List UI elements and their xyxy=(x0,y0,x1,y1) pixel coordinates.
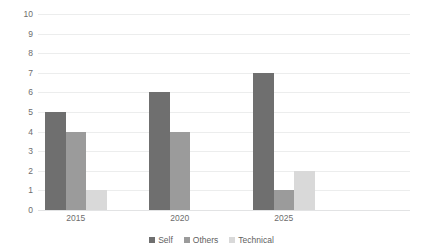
legend-item-self[interactable]: Self xyxy=(149,236,173,245)
y-axis-tick-label: 0 xyxy=(3,206,33,215)
bar-self-2025 xyxy=(253,73,274,210)
y-axis-tick-label: 5 xyxy=(3,108,33,117)
legend-swatch-icon xyxy=(149,237,155,243)
bar-self-2015 xyxy=(45,112,66,210)
legend-swatch-icon xyxy=(229,237,235,243)
y-axis-tick-label: 1 xyxy=(3,186,33,195)
legend-item-technical[interactable]: Technical xyxy=(229,236,273,245)
gridline xyxy=(38,112,410,113)
bar-self-2020 xyxy=(149,92,170,210)
bar-chart: 012345678910 SelfOthersTechnical 2015202… xyxy=(0,0,423,251)
gridline xyxy=(38,171,410,172)
y-axis-tick-label: 7 xyxy=(3,69,33,78)
y-axis-tick-label: 10 xyxy=(3,10,33,19)
chart-legend: SelfOthersTechnical xyxy=(0,236,423,245)
y-axis-tick-label: 3 xyxy=(3,147,33,156)
bar-technical-2015 xyxy=(86,190,107,210)
y-axis: 012345678910 xyxy=(0,14,33,210)
x-axis-tick-label: 2020 xyxy=(129,214,231,223)
gridline xyxy=(38,210,410,211)
legend-item-others[interactable]: Others xyxy=(184,236,219,245)
y-axis-tick-label: 4 xyxy=(3,127,33,136)
legend-label: Technical xyxy=(238,236,273,245)
x-axis-tick-label: 2025 xyxy=(233,214,335,223)
x-axis-tick-label: 2015 xyxy=(25,214,127,223)
y-axis-tick-label: 2 xyxy=(3,167,33,176)
legend-label: Self xyxy=(158,236,173,245)
bar-others-2025 xyxy=(274,190,295,210)
legend-swatch-icon xyxy=(184,237,190,243)
gridline xyxy=(38,92,410,93)
bar-others-2015 xyxy=(66,132,87,210)
bar-technical-2025 xyxy=(294,171,315,210)
bar-others-2020 xyxy=(170,132,191,210)
gridline xyxy=(38,132,410,133)
y-axis-tick-label: 8 xyxy=(3,49,33,58)
y-axis-tick-label: 6 xyxy=(3,88,33,97)
gridline xyxy=(38,151,410,152)
y-axis-tick-label: 9 xyxy=(3,29,33,38)
gridline xyxy=(38,73,410,74)
gridline xyxy=(38,53,410,54)
gridline xyxy=(38,14,410,15)
legend-label: Others xyxy=(193,236,219,245)
plot-area xyxy=(38,14,410,210)
gridline xyxy=(38,34,410,35)
